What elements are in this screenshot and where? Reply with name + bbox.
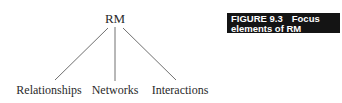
root-node-rm: RM: [105, 12, 125, 25]
child-node-networks: Networks: [92, 84, 139, 96]
connector-relationships: [55, 28, 108, 80]
child-node-relationships: Relationships: [16, 84, 81, 96]
caption-title-part2: elements of RM: [231, 24, 340, 34]
connector-interactions: [123, 28, 176, 80]
rm-tree-diagram: RM Relationships Networks Interactions: [0, 0, 220, 103]
figure-caption: FIGURE 9.3Focus elements of RM: [227, 13, 340, 33]
child-node-interactions: Interactions: [152, 84, 209, 96]
